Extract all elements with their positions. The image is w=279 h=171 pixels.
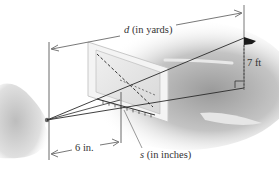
- rangefinder-diagram: d (in yards) 7 ft 6 in. s (in inches): [0, 0, 279, 171]
- flag-height-label: 7 ft: [247, 57, 261, 68]
- scale-reading-label: s (in inches): [140, 149, 192, 161]
- distance-label: d (in yards): [124, 24, 173, 36]
- observer-face: [0, 84, 52, 159]
- card-distance-label: 6 in.: [75, 142, 94, 153]
